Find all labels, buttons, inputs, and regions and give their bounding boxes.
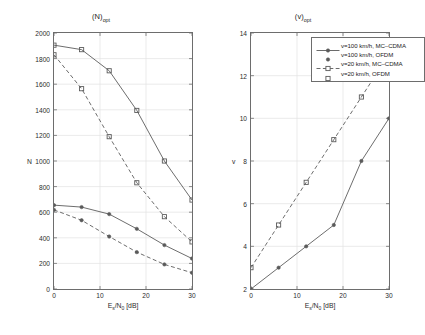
legend-item-label: v=100 km/h, OFDM [341, 51, 393, 58]
y-tick-label: 2000 [35, 30, 50, 37]
legend-item: v=100 km/h, OFDM [315, 50, 420, 59]
y-tick-label: 800 [39, 183, 50, 190]
legend-item-label: v=20 km/h, OFDM [341, 70, 390, 77]
legend-marker-dot-icon [315, 50, 341, 59]
x-tick-label: 30 [188, 292, 195, 299]
x-tick-label: 0 [52, 292, 56, 299]
legend-item-label: v=20 km/h, MC–CDMA [341, 60, 403, 67]
y-tick-label: 400 [39, 234, 50, 241]
legend-item: v=20 km/h, MC–CDMA [315, 59, 420, 68]
chart-panel-left: (N)opt N Es/N0 [dB] 02004006008001000120… [0, 0, 202, 335]
chart-title-left: (N)opt [0, 12, 202, 23]
chart-title-left-text: (N) [92, 12, 103, 21]
y-tick-label: 1200 [35, 132, 50, 139]
plot-area-left: 0200400600800100012001400160018002000010… [53, 32, 193, 290]
y-tick-label: 1800 [35, 55, 50, 62]
legend-marker-dot-icon [315, 41, 341, 50]
y-tick-label: 200 [39, 260, 50, 267]
x-axis-label-right: Es/N0 [dB] [250, 302, 390, 311]
legend-marker-square-icon [315, 69, 341, 78]
x-tick-label: 20 [142, 292, 149, 299]
legend-marker-square-icon [315, 59, 341, 68]
chart-title-right-subscript: opt [304, 17, 311, 23]
legend-item-label: v=100 km/h, MC–CDMA [341, 42, 406, 49]
plot-svg-left [54, 33, 192, 289]
chart-title-right-text: (v) [295, 12, 304, 21]
y-axis-label-left: N [27, 158, 32, 165]
x-axis-label-left: Es/N0 [dB] [53, 302, 193, 311]
y-tick-label: 1000 [35, 158, 50, 165]
legend-box: v=100 km/h, MC–CDMAv=100 km/h, OFDMv=20 … [311, 37, 425, 82]
chart-title-left-subscript: opt [103, 17, 110, 23]
y-tick-label: 1600 [35, 81, 50, 88]
y-axis-label-right: v [232, 158, 235, 165]
y-tick-label: 1400 [35, 106, 50, 113]
x-tick-label: 10 [96, 292, 103, 299]
legend-item: v=100 km/h, MC–CDMA [315, 41, 420, 50]
y-tick-label: 600 [39, 209, 50, 216]
chart-title-right: (v)opt [202, 12, 404, 23]
y-tick-label: 0 [46, 286, 50, 293]
legend-item: v=20 km/h, OFDM [315, 69, 420, 78]
